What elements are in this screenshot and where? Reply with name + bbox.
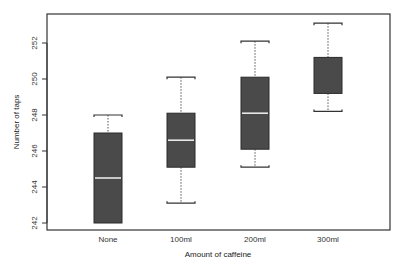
iqr-box (314, 57, 342, 93)
y-tick-label: 248 (30, 108, 39, 122)
x-tick-label: 100ml (170, 235, 192, 244)
box-100ml (167, 77, 195, 203)
x-tick-label: 300ml (317, 235, 339, 244)
y-axis-title: Number of taps (12, 95, 21, 150)
x-tick-label: None (98, 235, 118, 244)
y-tick-label: 250 (30, 72, 39, 86)
y-axis: 242244246248250252 (30, 36, 47, 230)
box-none (94, 115, 122, 223)
y-tick-label: 246 (30, 144, 39, 158)
y-tick-label: 244 (30, 180, 39, 194)
x-axis-title: Amount of caffeine (185, 250, 252, 259)
x-tick-label: 200ml (244, 235, 266, 244)
box-300ml (314, 23, 342, 111)
boxplot-chart: 242244246248250252 None100ml200ml300ml A… (0, 0, 402, 270)
y-tick-label: 252 (30, 36, 39, 50)
y-tick-label: 242 (30, 216, 39, 230)
x-axis-labels: None100ml200ml300ml (98, 235, 339, 244)
box-200ml (241, 41, 269, 167)
boxes-group (94, 23, 342, 223)
